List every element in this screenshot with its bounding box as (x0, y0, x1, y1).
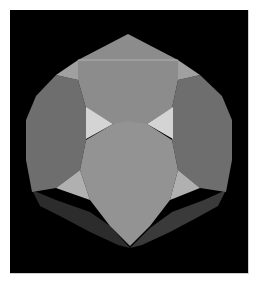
polyhedron-render (0, 0, 253, 281)
